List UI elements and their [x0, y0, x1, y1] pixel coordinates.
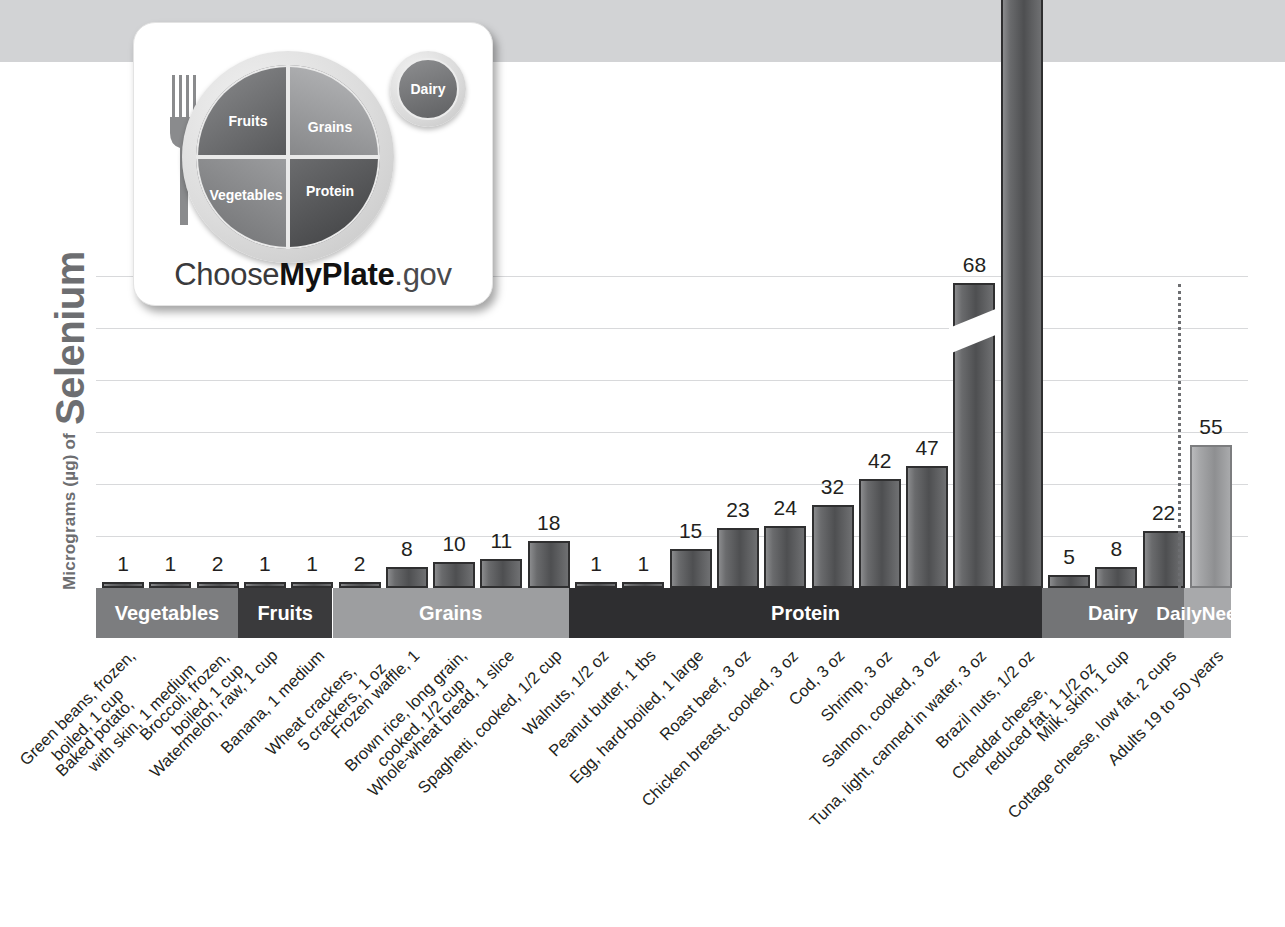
bar-slot: 1 [575, 180, 617, 588]
dairy-label: Dairy [397, 58, 459, 120]
bar-value-label: 23 [726, 498, 749, 522]
bar-slot: 42 [859, 180, 901, 588]
myplate-wordmark: ChooseMyPlate.gov [134, 257, 492, 293]
category-band-grains: Grains [333, 588, 570, 638]
plate-label-fruits: Fruits [229, 113, 268, 129]
bar-value-label: 55 [1199, 415, 1222, 439]
bar[interactable] [953, 283, 995, 588]
bar[interactable] [1190, 445, 1232, 588]
bar[interactable] [528, 541, 570, 588]
bar-value-label: 10 [442, 532, 465, 556]
y-axis-title-prefix: Micrograms (µg) of [60, 433, 80, 590]
category-band-label: Dairy [1088, 603, 1138, 623]
bar[interactable] [480, 559, 522, 588]
category-band-label: Grains [419, 603, 482, 623]
bar-value-label: 1 [590, 552, 602, 576]
bar-value-label: 1 [637, 552, 649, 576]
bar-value-label: 2 [212, 552, 224, 576]
bar-value-label: 22 [1152, 501, 1175, 525]
bar-value-label: 15 [679, 519, 702, 543]
category-band-fruits: Fruits [238, 588, 333, 638]
bar-value-label: 18 [537, 511, 560, 535]
category-band-label: Needs [1202, 603, 1259, 624]
bar[interactable] [812, 505, 854, 588]
plate-quadrant-fruits: Fruits [196, 65, 288, 157]
bar-slot: 32 [812, 180, 854, 588]
bar-value-label: 1 [117, 552, 129, 576]
bar[interactable] [1048, 575, 1090, 588]
bar[interactable] [386, 567, 428, 588]
plate-label-protein: Protein [306, 183, 354, 199]
x-axis-labels: Green beans, frozen,boiled, 1 cupBaked p… [0, 640, 1285, 920]
bar[interactable] [717, 528, 759, 588]
bar-value-label: 8 [1110, 537, 1122, 561]
bar-value-label: 24 [774, 496, 797, 520]
bar-value-label: 11 [490, 529, 512, 553]
category-band-label: Daily [1156, 603, 1201, 624]
bar-slot: 24 [764, 180, 806, 588]
category-band-label: Fruits [257, 603, 313, 623]
bar-value-label: 68 [963, 253, 986, 277]
bar-slot: 23 [717, 180, 759, 588]
plate-graphic: Fruits Grains Vegetables Protein [182, 51, 394, 263]
myplate-logo-card: Fruits Grains Vegetables Protein Dairy C… [133, 22, 493, 306]
bar-slot: 544 [1001, 180, 1043, 588]
bar-value-label: 32 [821, 475, 844, 499]
category-band-vegetables: Vegetables [96, 588, 238, 638]
wordmark-myplate: MyPlate [279, 257, 394, 292]
bar-value-label: 1 [306, 552, 318, 576]
bar-value-label: 1 [164, 552, 176, 576]
plate-quadrant-vegetables: Vegetables [196, 157, 288, 249]
bar-value-label: 1 [259, 552, 271, 576]
bar-slot: 5 [1048, 180, 1090, 588]
bar[interactable] [1001, 0, 1043, 588]
plate-label-vegetables: Vegetables [209, 187, 282, 203]
bar-slot: 18 [528, 180, 570, 588]
category-band-protein: Protein [569, 588, 1042, 638]
plate-label-grains: Grains [308, 119, 352, 135]
bar-slot: 47 [906, 180, 948, 588]
bar[interactable] [906, 466, 948, 588]
bar-value-label: 47 [915, 436, 938, 460]
category-band-daily-needs: DailyNeeds [1184, 588, 1231, 638]
bar-slot: 55 [1190, 180, 1232, 588]
bar-value-label: 8 [401, 537, 413, 561]
category-band-label: Protein [771, 603, 840, 623]
bar[interactable] [859, 479, 901, 588]
y-axis-title: Micrograms (µg) of Selenium [40, 150, 100, 590]
bar-slot: 8 [1095, 180, 1137, 588]
plate-quadrant-grains: Grains [288, 65, 380, 157]
bar[interactable] [764, 526, 806, 588]
bar-slot: 1 [622, 180, 664, 588]
bar-slot: 68 [953, 180, 995, 588]
plate-quadrant-protein: Protein [288, 157, 380, 249]
wordmark-gov: .gov [394, 257, 451, 292]
bar-value-label: 42 [868, 449, 891, 473]
bar-value-label: 2 [354, 552, 366, 576]
wordmark-choose: Choose [174, 257, 279, 292]
daily-needs-separator [1178, 284, 1181, 588]
category-band-label: Vegetables [115, 603, 220, 623]
category-bands: VegetablesFruitsGrainsProteinDairyDailyN… [96, 588, 1248, 638]
bar[interactable] [670, 549, 712, 588]
bar-value-label: 5 [1063, 545, 1075, 569]
y-axis-title-nutrient: Selenium [48, 251, 93, 425]
chart-page: Micrograms (µg) of Selenium 112112810111… [0, 0, 1285, 927]
bar[interactable] [1095, 567, 1137, 588]
bar-slot: 15 [670, 180, 712, 588]
bar[interactable] [433, 562, 475, 588]
dairy-circle: Dairy [390, 51, 466, 127]
